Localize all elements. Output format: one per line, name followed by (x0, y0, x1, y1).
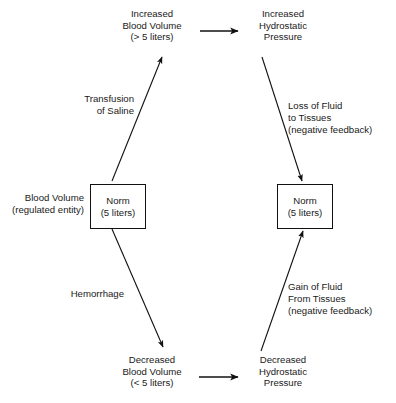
norm-box-right: Norm (5 liters) (277, 184, 333, 229)
node-decreased-blood-volume: Decreased Blood Volume (< 5 liters) (104, 354, 200, 389)
node-increased-blood-volume-line2: Blood Volume (104, 20, 200, 32)
node-increased-hydrostatic-pressure-line2: Hydrostatic (240, 20, 326, 32)
norm-box-left-line2: (5 liters) (101, 207, 136, 219)
side-label-line1: Blood Volume (8, 192, 84, 204)
node-increased-blood-volume: Increased Blood Volume (> 5 liters) (104, 8, 200, 43)
norm-box-left-line1: Norm (106, 195, 129, 207)
norm-box-right-line2: (5 liters) (288, 207, 323, 219)
node-decreased-hydrostatic-pressure-line2: Hydrostatic (240, 366, 326, 378)
edge-label-loss-of-fluid-line2: to Tissues (288, 112, 394, 124)
edge-label-transfusion-line1: Transfusion (12, 93, 134, 105)
node-increased-hydrostatic-pressure-line3: Pressure (240, 31, 326, 43)
feedback-loop-diagram: Increased Blood Volume (> 5 liters) Incr… (0, 0, 396, 403)
node-increased-hydrostatic-pressure: Increased Hydrostatic Pressure (240, 8, 326, 43)
node-decreased-blood-volume-line1: Decreased (104, 354, 200, 366)
edge-label-transfusion-line2: of Saline (12, 105, 134, 117)
node-increased-hydrostatic-pressure-line1: Increased (240, 8, 326, 20)
edge-label-loss-of-fluid-line1: Loss of Fluid (288, 100, 394, 112)
edge-label-gain-of-fluid-line3: (negative feedback) (288, 305, 394, 317)
node-decreased-hydrostatic-pressure: Decreased Hydrostatic Pressure (240, 354, 326, 389)
edge-label-gain-of-fluid-line1: Gain of Fluid (288, 281, 394, 293)
norm-box-left: Norm (5 liters) (90, 184, 146, 229)
node-increased-blood-volume-line3: (> 5 liters) (104, 31, 200, 43)
edge-label-loss-of-fluid-line3: (negative feedback) (288, 124, 394, 136)
edge-label-gain-of-fluid-line2: From Tissues (288, 293, 394, 305)
norm-box-right-line1: Norm (293, 195, 316, 207)
edge-label-loss-of-fluid: Loss of Fluid to Tissues (negative feedb… (288, 100, 394, 135)
edge-label-hemorrhage: Hemorrhage (12, 288, 124, 300)
arrow-transfusion-norm-to-increased-volume (112, 57, 162, 181)
side-label-line2: (regulated entity) (8, 204, 84, 216)
node-increased-blood-volume-line1: Increased (104, 8, 200, 20)
edge-label-transfusion-of-saline: Transfusion of Saline (12, 93, 134, 117)
node-decreased-hydrostatic-pressure-line3: Pressure (240, 377, 326, 389)
edge-label-gain-of-fluid: Gain of Fluid From Tissues (negative fee… (288, 281, 394, 316)
node-decreased-blood-volume-line2: Blood Volume (104, 366, 200, 378)
edge-label-hemorrhage-line1: Hemorrhage (12, 288, 124, 300)
node-decreased-blood-volume-line3: (< 5 liters) (104, 377, 200, 389)
node-decreased-hydrostatic-pressure-line1: Decreased (240, 354, 326, 366)
side-label-blood-volume-regulated-entity: Blood Volume (regulated entity) (8, 192, 84, 215)
